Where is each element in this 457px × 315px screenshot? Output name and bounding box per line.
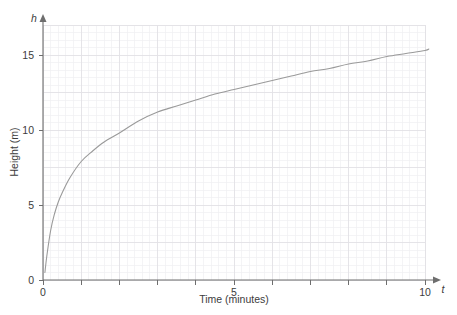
x-axis-variable: t [442,283,446,295]
y-tick-label-0: 0 [28,274,34,286]
figure-root: 0510 051015 Time (minutes) Height (m) t … [0,0,457,315]
y-tick-labels: 051015 [22,49,34,286]
y-tick-label-10: 10 [22,124,34,136]
axes [40,14,442,284]
x-tick-label-0: 0 [40,286,46,298]
y-axis-variable: h [31,12,37,24]
y-ticks [39,55,44,280]
y-tick-label-15: 15 [22,49,34,61]
x-ticks [43,280,425,285]
x-axis-title: Time (minutes) [199,293,269,305]
x-tick-label-10: 10 [419,286,431,298]
y-tick-label-5: 5 [28,199,34,211]
chart-svg: 0510 051015 Time (minutes) Height (m) t … [0,0,457,315]
x-axis-arrow [433,277,441,284]
y-axis-title: Height (m) [8,127,20,176]
y-axis-arrow [40,14,47,22]
